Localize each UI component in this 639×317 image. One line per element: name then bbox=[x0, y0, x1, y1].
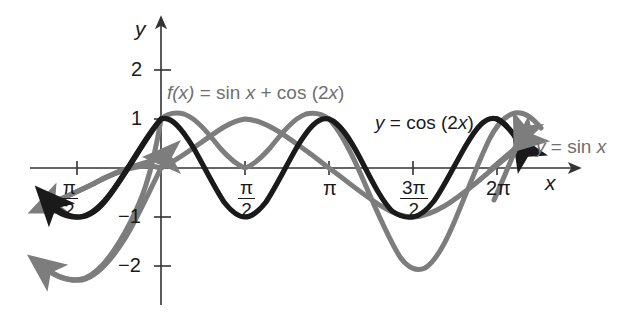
y-tick-label-1: 1 bbox=[131, 108, 142, 128]
cos-2x-variable: x bbox=[458, 112, 468, 133]
sin-x-rhs: = sin bbox=[546, 136, 597, 157]
fraction-numerator: 3π bbox=[400, 178, 428, 197]
y-tick-label-2: 2 bbox=[131, 59, 142, 79]
plot-canvas bbox=[0, 0, 639, 317]
y-tick-label-neg-1: −1 bbox=[118, 206, 141, 226]
x-tick-label-pi: π bbox=[323, 178, 337, 198]
sin-x-lhs: y bbox=[536, 136, 546, 157]
fraction-numerator: π bbox=[238, 178, 255, 197]
fraction-denominator: 2 bbox=[238, 200, 255, 219]
x-tick-label-2pi: 2π bbox=[486, 178, 511, 198]
x-tick-label-neg-pi-over-2: − π 2 bbox=[46, 178, 78, 220]
f-of-x-equals: = sin bbox=[194, 82, 245, 103]
cos-2x-close-paren: ) bbox=[467, 112, 473, 133]
y-axis-label: y bbox=[135, 18, 146, 39]
fraction-numerator: π bbox=[61, 178, 78, 197]
curve-label-cos-2x: y = cos (2x) bbox=[375, 113, 474, 132]
f-of-x-token: f(x) bbox=[167, 82, 194, 103]
curve-label-f-of-x: f(x) = sin x + cos (2x) bbox=[167, 83, 344, 102]
trigonometric-graph-figure: y x 2 1 −1 −2 − π 2 π 2 π 3π 2 bbox=[0, 0, 639, 317]
cos-2x-lhs: y bbox=[375, 112, 385, 133]
f-of-x-rest: + cos (2 bbox=[255, 82, 328, 103]
f-of-x-close-paren: ) bbox=[338, 82, 344, 103]
x-axis-label: x bbox=[545, 172, 556, 193]
sin-x-variable: x bbox=[597, 136, 607, 157]
f-of-x-variable: x bbox=[246, 82, 256, 103]
cos-2x-rhs: = cos (2 bbox=[385, 112, 458, 133]
curve-label-sin-x: y = sin x bbox=[536, 137, 606, 156]
fraction-denominator: 2 bbox=[400, 200, 428, 219]
y-tick-label-neg-2: −2 bbox=[118, 255, 141, 275]
x-tick-label-3pi-over-2: 3π 2 bbox=[400, 178, 428, 220]
minus-sign: − bbox=[46, 189, 58, 209]
x-tick-label-pi-over-2: π 2 bbox=[238, 178, 255, 220]
f-of-x-variable-2: x bbox=[329, 82, 339, 103]
fraction-denominator: 2 bbox=[61, 200, 78, 219]
